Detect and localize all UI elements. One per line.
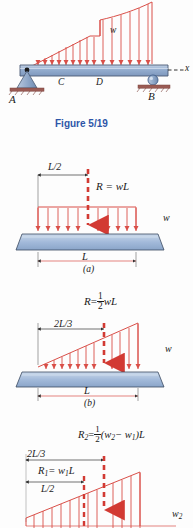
case-c-r1-tail: L [69, 465, 75, 476]
load-arrows-ramp [38, 37, 94, 65]
case-c-r1-label: R1= w1L [38, 465, 75, 478]
case-a-resultant-label: R = wL [96, 180, 129, 192]
case-a-surface-plate [16, 234, 164, 250]
label-axis-x: x [185, 63, 189, 73]
case-c-dim-2l3-label: 2L/3 [27, 448, 45, 459]
case-a-intensity-label: w [163, 212, 170, 223]
case-c-load-arrows [34, 473, 140, 528]
figure-caption: Figure 5/19 [55, 118, 108, 129]
case-c-r1-equals: = w [48, 465, 65, 476]
case-b-load-arrows [46, 324, 138, 369]
case-b-caption: (b) [84, 398, 95, 408]
beam-body [20, 65, 168, 76]
case-b-centroid-label: 2L/3 [54, 318, 72, 329]
case-c-w2-symbol: w [172, 508, 179, 519]
case-b-r-tail: wL [104, 295, 117, 307]
case-a-span-label: L [82, 251, 88, 262]
figure-page: A B C D w x Figure 5/19 [0, 0, 193, 528]
case-a-half-span-dim [38, 175, 88, 207]
case-b-resultant-label: R=12wL [84, 292, 117, 312]
case-b-intensity-label: w [165, 343, 172, 354]
label-support-b: B [148, 90, 155, 102]
case-c-intensity-w2-label: w2 [172, 508, 182, 521]
case-c-r2-close: )L [135, 429, 144, 440]
case-b-frac-den: 2 [97, 302, 104, 311]
label-load-intensity-w: w [110, 25, 116, 35]
case-a-caption: (a) [83, 264, 94, 274]
case-c-r2-label: R2=12(w2− w1)L [78, 425, 145, 444]
case-a-load-arrows [38, 208, 136, 231]
case-c-r2-minus: − w [115, 429, 132, 440]
case-b-span-label: L [84, 385, 90, 396]
case-b-surface-plate [16, 372, 164, 387]
case-c-dim-l2-label: L/2 [41, 483, 54, 494]
case-c-r2-tail: (w [101, 429, 112, 440]
case-b-fraction: 12 [97, 292, 104, 312]
main-beam-figure [0, 0, 193, 115]
case-c-w2-sub: 2 [179, 513, 183, 521]
case-b-r-symbol: R [84, 295, 91, 307]
label-support-a: A [9, 93, 16, 105]
case-a-half-span-label: L/2 [48, 161, 61, 172]
label-point-d: D [96, 77, 103, 87]
label-point-c: C [58, 77, 64, 87]
